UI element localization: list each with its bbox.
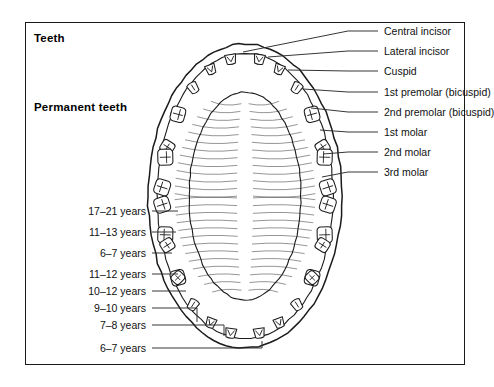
label-first-premolar: 1st premolar (bicuspid) bbox=[384, 87, 491, 98]
label-age-cuspid: 9–10 years bbox=[94, 303, 146, 314]
leader-line bbox=[322, 172, 378, 177]
label-third-molar: 3rd molar bbox=[384, 167, 428, 178]
leader-line bbox=[311, 108, 378, 112]
label-age-second-molar: 11–13 years bbox=[89, 227, 146, 238]
label-cuspid: Cuspid bbox=[384, 66, 417, 77]
label-central-incisor: Central incisor bbox=[384, 26, 451, 37]
label-age-central-incisor: 6–7 years bbox=[100, 343, 146, 354]
label-age-third-molar: 17–21 years bbox=[88, 206, 146, 217]
label-age-first-molar: 6–7 years bbox=[100, 248, 146, 259]
label-age-second-premolar: 11–12 years bbox=[89, 269, 146, 280]
label-age-lateral-incisor: 7–8 years bbox=[100, 320, 146, 331]
leader-line bbox=[320, 130, 378, 132]
palatal-rugae bbox=[175, 101, 315, 292]
leader-line bbox=[243, 31, 378, 52]
label-age-first-premolar: 10–12 years bbox=[88, 286, 146, 297]
label-second-molar: 2nd molar bbox=[384, 147, 431, 158]
label-lateral-incisor: Lateral incisor bbox=[384, 46, 449, 57]
label-first-molar: 1st molar bbox=[384, 127, 427, 138]
leader-line bbox=[268, 51, 378, 57]
teeth-group bbox=[153, 54, 338, 339]
label-second-premolar: 2nd premolar (bicuspid) bbox=[384, 107, 494, 118]
